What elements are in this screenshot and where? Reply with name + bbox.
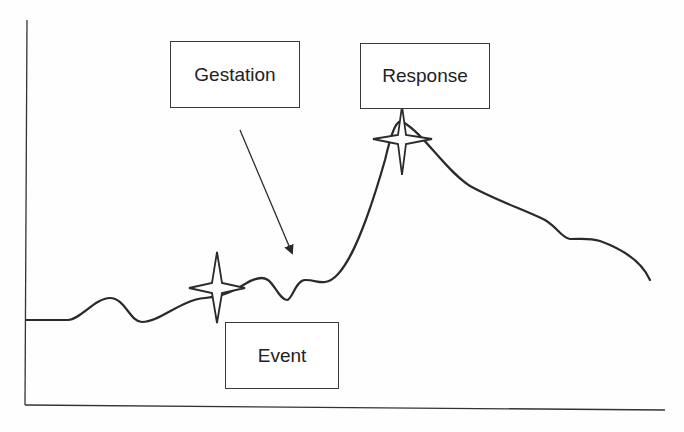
response-label-box: Response: [360, 43, 490, 109]
x-axis: [25, 405, 665, 410]
response-curve: [26, 121, 650, 322]
response-star-icon: [373, 106, 432, 175]
y-axis: [25, 20, 27, 405]
gestation-label-box: Gestation: [170, 41, 300, 108]
event-label: Event: [258, 345, 307, 367]
diagram-canvas: Gestation Response Event: [0, 0, 684, 432]
response-label: Response: [382, 65, 468, 87]
gestation-arrow: [240, 130, 292, 253]
gestation-label: Gestation: [194, 64, 275, 86]
diagram-svg: [0, 0, 684, 432]
event-label-box: Event: [225, 322, 339, 389]
event-star-icon: [189, 252, 245, 323]
